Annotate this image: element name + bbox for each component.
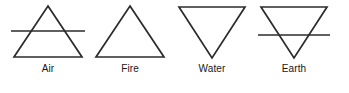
element-symbol-air: Air (8, 0, 88, 93)
element-label-fire: Fire (90, 63, 170, 75)
element-label-air: Air (8, 63, 88, 75)
element-symbol-earth: Earth (254, 0, 334, 93)
element-symbol-water: Water (172, 0, 252, 93)
element-label-earth: Earth (254, 63, 334, 75)
element-label-water: Water (172, 63, 252, 75)
alchemical-elements-figure: Air Fire Water Earth (0, 0, 349, 93)
fire-triangle-icon (90, 2, 170, 60)
air-triangle-icon (8, 2, 88, 60)
water-triangle-icon (172, 2, 252, 60)
element-symbol-fire: Fire (90, 0, 170, 93)
earth-triangle-icon (254, 2, 334, 60)
